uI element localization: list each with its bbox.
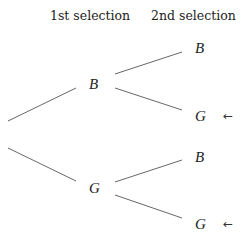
node-first-b: B: [89, 77, 98, 92]
branch-b-to-b: [115, 52, 182, 74]
tree-branches: [0, 0, 252, 242]
left-arrow-icon: ←: [223, 218, 233, 230]
node-second-b-g: G: [195, 109, 206, 124]
node-first-g: G: [89, 181, 100, 196]
node-second-g-b: B: [195, 150, 204, 165]
branch-root-to-g: [8, 148, 76, 181]
branch-g-to-g: [115, 195, 182, 218]
branch-root-to-b: [8, 88, 76, 121]
branch-g-to-b: [115, 160, 182, 182]
node-second-g-g: G: [195, 217, 206, 232]
branch-b-to-g: [115, 88, 182, 110]
left-arrow-icon: ←: [223, 110, 233, 122]
node-second-b-b: B: [195, 41, 204, 56]
